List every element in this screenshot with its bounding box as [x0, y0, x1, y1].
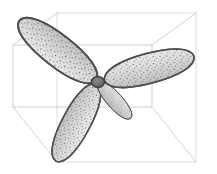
cube-edge-depth-bottom-left — [13, 107, 57, 162]
cube-edge-depth-bottom-right — [152, 107, 196, 162]
figure-root: 3D radiation pattern with four lobes ins… — [0, 0, 217, 174]
pattern-origin-hub — [92, 77, 105, 88]
radiation-pattern-figure: 3D radiation pattern with four lobes ins… — [0, 0, 217, 174]
cube-edge-depth-top-right — [152, 13, 196, 45]
hub-ellipse — [92, 77, 105, 88]
lobe-right — [100, 42, 198, 95]
